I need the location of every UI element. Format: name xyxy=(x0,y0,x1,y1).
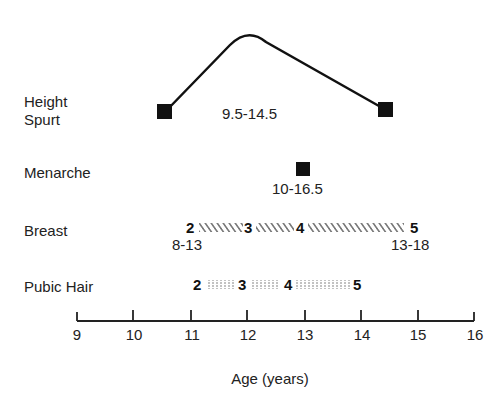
row-label-height: Height xyxy=(24,93,68,110)
tick-12: 12 xyxy=(240,326,257,343)
breast-end-range: 13-18 xyxy=(391,236,429,253)
pubic-stage-4: 4 xyxy=(284,276,293,293)
tick-10: 10 xyxy=(126,326,143,343)
row-label-menarche: Menarche xyxy=(24,164,91,181)
breast-stage-2: 2 xyxy=(186,219,194,236)
x-axis xyxy=(77,310,474,321)
menarche-marker xyxy=(296,162,310,176)
breast-stage-4: 4 xyxy=(296,219,305,236)
tick-13: 13 xyxy=(297,326,314,343)
height-spurt-end-marker xyxy=(378,102,393,117)
menarche-range: 10-16.5 xyxy=(272,180,323,197)
breast-start-range: 8-13 xyxy=(172,236,202,253)
breast-stage-5: 5 xyxy=(410,219,418,236)
tick-9: 9 xyxy=(73,326,81,343)
puberty-timeline-diagram: Height Spurt Menarche Breast Pubic Hair … xyxy=(0,0,499,411)
row-label-breast: Breast xyxy=(24,222,68,239)
height-spurt-curve xyxy=(165,35,386,112)
breast-stage-2-3-bar xyxy=(199,223,243,232)
row-label-spurt: Spurt xyxy=(24,111,61,128)
pubic-stage-3: 3 xyxy=(238,276,246,293)
tick-11: 11 xyxy=(184,326,200,343)
breast-stage-3: 3 xyxy=(244,219,252,236)
height-spurt-start-marker xyxy=(157,104,172,119)
pubic-stage-2: 2 xyxy=(193,276,201,293)
height-spurt-range: 9.5-14.5 xyxy=(222,105,277,122)
row-label-pubic-hair: Pubic Hair xyxy=(24,278,93,295)
breast-stage-3-4-bar xyxy=(256,223,294,232)
pubic-stage-4-5-bar xyxy=(296,280,352,289)
pubic-stage-3-4-bar xyxy=(250,280,280,289)
tick-15: 15 xyxy=(410,326,427,343)
tick-16: 16 xyxy=(467,326,484,343)
breast-stage-4-5-bar xyxy=(308,223,404,232)
pubic-stage-2-3-bar xyxy=(206,280,236,289)
tick-14: 14 xyxy=(354,326,371,343)
pubic-stage-5: 5 xyxy=(353,276,361,293)
x-axis-label: Age (years) xyxy=(231,370,309,387)
